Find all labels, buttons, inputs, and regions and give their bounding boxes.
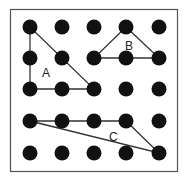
peg	[152, 114, 167, 129]
peg	[23, 20, 38, 35]
peg	[23, 146, 38, 161]
peg	[152, 51, 167, 66]
geoboard-diagram: A B C	[0, 0, 187, 180]
peg	[23, 114, 38, 129]
peg	[23, 51, 38, 66]
label-b: B	[125, 39, 133, 53]
peg	[23, 82, 38, 97]
label-a: A	[42, 66, 50, 80]
peg	[87, 146, 102, 161]
peg	[152, 146, 167, 161]
peg	[119, 20, 134, 35]
peg	[119, 146, 134, 161]
peg	[87, 20, 102, 35]
peg	[119, 114, 134, 129]
peg	[152, 82, 167, 97]
peg	[55, 146, 70, 161]
peg	[152, 20, 167, 35]
peg	[87, 114, 102, 129]
label-c: C	[109, 130, 118, 144]
peg	[55, 82, 70, 97]
peg	[119, 82, 134, 97]
peg	[87, 82, 102, 97]
peg	[55, 114, 70, 129]
peg	[55, 20, 70, 35]
peg	[87, 51, 102, 66]
peg	[55, 51, 70, 66]
